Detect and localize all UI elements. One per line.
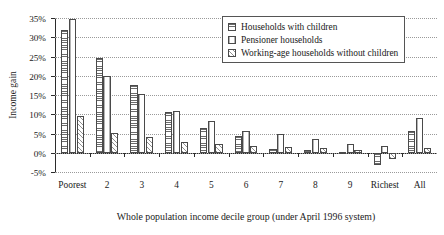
gridline: [55, 95, 437, 96]
bar: [285, 147, 292, 153]
bar: [416, 118, 423, 152]
y-axis-tick-label: 15%: [29, 91, 46, 101]
y-axis-title-wrapper: Income gain: [10, 0, 24, 190]
diagonal-hatch-swatch: [228, 49, 236, 57]
y-axis-tick-label: 5%: [34, 130, 46, 140]
y-axis-tick: 0%: [51, 153, 55, 154]
bar: [138, 94, 145, 153]
y-axis-title: Income gain: [7, 71, 18, 119]
y-axis-tick: 5%: [51, 134, 55, 135]
bar: [347, 144, 354, 152]
y-axis-tick: 20%: [51, 76, 55, 77]
bar: [339, 152, 346, 154]
x-axis-tick: [229, 153, 230, 157]
legend-item: Households with children: [228, 20, 398, 33]
x-axis-tick: [298, 153, 299, 157]
y-axis-tick-label: 20%: [29, 72, 46, 82]
bar: [96, 58, 103, 152]
x-axis-tick-label: 7: [278, 180, 283, 190]
x-axis-tick-label: Richest: [371, 180, 399, 190]
bar: [181, 142, 188, 153]
bar: [215, 144, 222, 152]
bar: [77, 116, 84, 153]
chart-figure: Income gain -5%0%5%10%15%20%25%30%35% Po…: [0, 0, 444, 235]
y-axis-tick: 15%: [51, 95, 55, 96]
y-axis-tick-label: 0%: [34, 149, 46, 159]
x-axis-tick-label: 6: [244, 180, 249, 190]
x-axis-tick-label: All: [414, 180, 426, 190]
chart-legend: Households with childrenPensioner househ…: [222, 16, 405, 63]
y-axis-tick-label: 30%: [29, 33, 46, 43]
bar: [304, 150, 311, 152]
legend-item: Pensioner households: [228, 33, 398, 46]
x-axis-tick: [124, 153, 125, 157]
x-axis-tick: [368, 153, 369, 157]
y-axis-tick: 35%: [51, 18, 55, 19]
y-axis-tick-label: 10%: [29, 110, 46, 120]
bar: [208, 121, 215, 153]
bar: [235, 136, 242, 153]
x-axis-title: Whole population income decile group (un…: [55, 211, 437, 222]
bar: [250, 146, 257, 153]
bar: [374, 153, 381, 166]
bar: [354, 150, 361, 153]
x-axis-tick: [333, 153, 334, 157]
bar: [130, 85, 137, 152]
horizontal-lines-swatch: [228, 23, 236, 31]
x-axis-tick-label: 9: [348, 180, 353, 190]
x-axis-tick-label: Poorest: [58, 180, 86, 190]
bar: [61, 30, 68, 152]
bar: [424, 148, 431, 153]
x-axis-tick-label: 3: [139, 180, 144, 190]
bar: [146, 137, 153, 153]
bar: [277, 134, 284, 153]
gridline: [55, 76, 437, 77]
bar: [408, 131, 415, 153]
x-axis-tick: [90, 153, 91, 157]
y-axis-tick: 10%: [51, 114, 55, 115]
x-axis-tick: [194, 153, 195, 157]
bar: [69, 19, 76, 153]
y-axis-tick: 30%: [51, 37, 55, 38]
y-axis-tick: -5%: [51, 172, 55, 173]
gridline: [55, 172, 437, 173]
vertical-lines-swatch: [228, 36, 236, 44]
x-axis-tick: [263, 153, 264, 157]
bar: [269, 149, 276, 153]
bar: [312, 139, 319, 153]
bar: [389, 153, 396, 159]
y-axis-tick-label: 35%: [29, 14, 46, 24]
x-axis-tick-label: 2: [105, 180, 110, 190]
bar: [320, 148, 327, 153]
y-axis-tick-label: 25%: [29, 53, 46, 63]
bar: [111, 133, 118, 153]
bar: [173, 111, 180, 153]
x-axis-tick-label: 8: [313, 180, 318, 190]
x-axis-tick-label: 4: [174, 180, 179, 190]
y-axis-tick: 25%: [51, 57, 55, 58]
x-axis-tick: [402, 153, 403, 157]
bar: [165, 112, 172, 153]
bar: [103, 76, 110, 153]
legend-item-label: Households with children: [241, 22, 337, 32]
bar: [200, 128, 207, 153]
legend-item-label: Pensioner households: [241, 35, 323, 45]
x-axis-tick-label: 5: [209, 180, 214, 190]
bar: [242, 131, 249, 153]
legend-item: Working-age households without children: [228, 46, 398, 59]
gridline: [55, 114, 437, 115]
legend-item-label: Working-age households without children: [241, 48, 398, 58]
bar: [381, 146, 388, 153]
y-axis-tick-label: -5%: [31, 168, 46, 178]
x-axis-tick: [159, 153, 160, 157]
